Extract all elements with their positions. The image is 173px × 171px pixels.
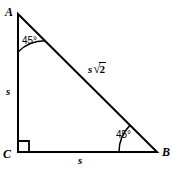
right-angle-marker-icon <box>18 141 29 152</box>
side-label-leg-horizontal: s <box>78 155 82 166</box>
triangle-diagram: A B C s s s√2 45° 45° <box>0 0 173 171</box>
triangle-outline <box>18 14 157 152</box>
vertex-label-c: C <box>3 148 11 160</box>
side-label-leg-vertical: s <box>6 86 10 97</box>
side-label-hypotenuse: s√2 <box>88 62 106 75</box>
angle-label-a: 45° <box>22 36 37 46</box>
hypotenuse-variable: s <box>88 63 92 75</box>
vertex-label-a: A <box>5 6 13 18</box>
vertex-label-b: B <box>162 146 170 158</box>
hypotenuse-radicand: 2 <box>99 62 106 75</box>
angle-label-b: 45° <box>116 130 131 140</box>
triangle-drawing <box>0 0 173 171</box>
